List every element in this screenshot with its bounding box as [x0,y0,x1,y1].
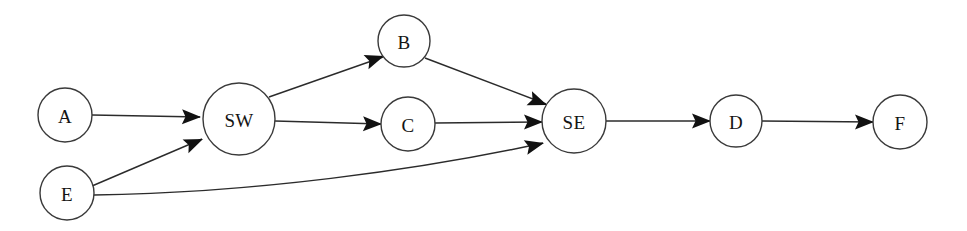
node-f[interactable]: F [873,95,927,149]
node-sw[interactable]: SW [203,83,275,155]
node-e[interactable]: E [40,166,94,220]
node-label-e: E [61,184,73,205]
node-label-f: F [895,113,906,134]
node-label-sw: SW [224,110,253,131]
node-label-a: A [58,106,72,127]
edge-d-to-f [762,121,873,122]
node-c[interactable]: C [381,97,435,151]
node-se[interactable]: SE [542,89,606,153]
node-a[interactable]: A [38,88,92,142]
node-b[interactable]: B [378,15,430,67]
node-label-d: D [729,112,743,133]
node-graph-diagram: AESWBCSEDF [0,0,967,231]
edge-c-to-se [435,122,542,123]
node-d[interactable]: D [710,95,762,147]
node-label-c: C [402,115,415,136]
node-label-b: B [398,32,411,53]
node-label-se: SE [563,112,586,133]
